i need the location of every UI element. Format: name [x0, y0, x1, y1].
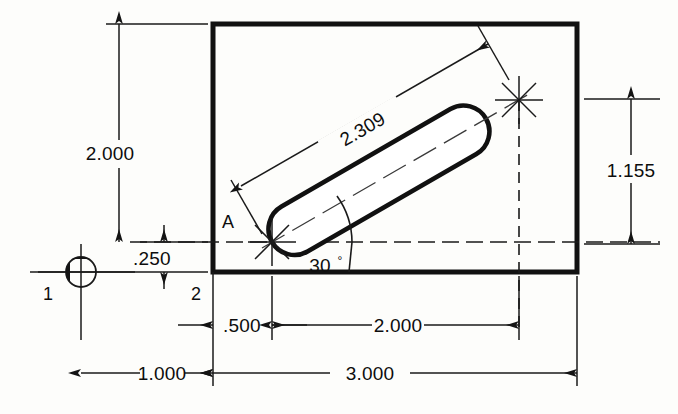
- slot-upper-center-mark: [495, 76, 543, 124]
- label-point-a: A: [222, 212, 234, 232]
- angle-30-leader: [349, 242, 352, 272]
- dim-30-degree-value: 30: [309, 255, 331, 276]
- dim-1000-value: 1.000: [138, 363, 187, 384]
- dim-2000-run-value: 2.000: [374, 315, 423, 336]
- datum-label-one: 1: [43, 284, 53, 304]
- degree-symbol-icon: °: [338, 254, 343, 268]
- slot-lower-center-mark: [248, 218, 296, 266]
- dim-2000-height-value: 2.000: [86, 143, 135, 164]
- datum-label-two: 2: [191, 284, 201, 304]
- dim-250-value: .250: [133, 248, 171, 269]
- dim-2309-value: 2.309: [336, 108, 389, 150]
- dim-1155-value: 1.155: [607, 160, 656, 181]
- dim-2309-ext-line-lower: [231, 180, 262, 234]
- drawing-svg: 2.309 A 30 ° 2.000 .250 1.155: [0, 0, 678, 414]
- dim-2309-ext-line-upper: [478, 26, 509, 80]
- dim-500-value: .500: [223, 315, 261, 336]
- engineering-drawing-canvas: 2.309 A 30 ° 2.000 .250 1.155: [0, 0, 678, 414]
- dim-3000-value: 3.000: [346, 363, 395, 384]
